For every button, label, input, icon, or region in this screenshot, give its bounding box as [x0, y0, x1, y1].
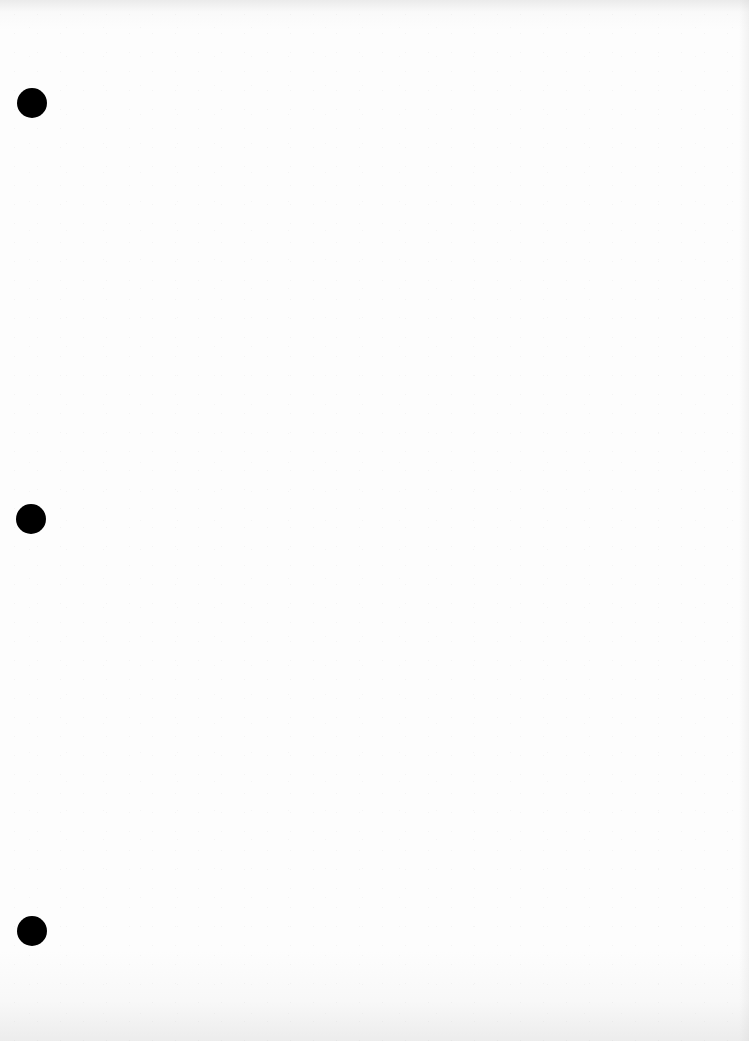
punch-hole-middle [16, 504, 46, 534]
paper-texture [0, 0, 749, 1041]
blank-paper-page [0, 0, 749, 1041]
punch-hole-bottom [17, 916, 47, 946]
punch-hole-top [17, 88, 47, 118]
